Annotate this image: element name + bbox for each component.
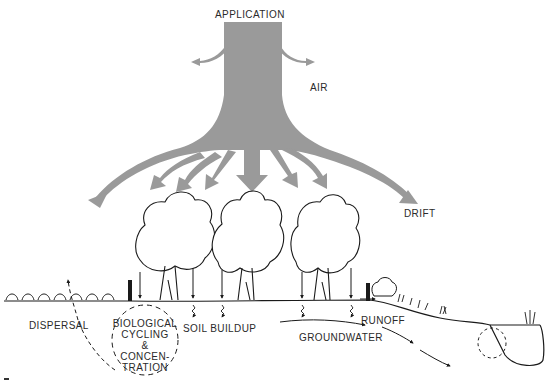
label-application: APPLICATION: [215, 9, 285, 20]
grass-tufts: [398, 294, 535, 324]
deposition-arrows: [140, 268, 351, 298]
label-biological-cycling: BIOLOGICAL CYCLING & CONCEN- TRATION: [112, 318, 178, 373]
label-biological-line5: TRATION: [112, 362, 178, 373]
label-soil-buildup: SOIL BUILDUP: [183, 323, 256, 334]
fence-post-icon: [128, 280, 132, 301]
label-biological-line1: BIOLOGICAL: [112, 318, 178, 329]
soil-buildup-squiggles: [192, 305, 353, 317]
label-runoff: RUNOFF: [361, 315, 405, 326]
shrub-icon: [6, 294, 114, 300]
fence-post-icon: [366, 283, 370, 301]
label-biological-line2: CYCLING: [112, 329, 178, 340]
tree-icon: [291, 195, 360, 300]
label-biological-line4: CONCEN-: [112, 351, 178, 362]
label-drift: DRIFT: [404, 208, 435, 219]
ground-line: [4, 300, 544, 365]
tree-icon: [136, 192, 215, 300]
label-groundwater: GROUNDWATER: [299, 332, 383, 343]
pond-icon: [478, 328, 506, 358]
label-biological-line3: &: [112, 340, 178, 351]
label-air: AIR: [310, 82, 328, 93]
tree-icon: [212, 191, 283, 300]
shrub-icon: [372, 278, 397, 297]
label-dispersal: DISPERSAL: [29, 320, 89, 331]
application-flow-arrow-icon: [88, 22, 418, 208]
